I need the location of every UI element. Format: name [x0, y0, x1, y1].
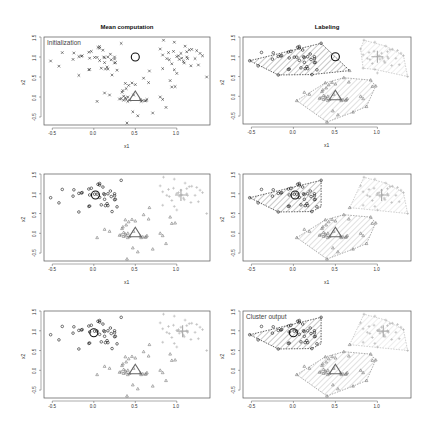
x-tick-label: -0.5 [48, 404, 56, 409]
data-point [73, 326, 76, 329]
data-point [168, 59, 171, 62]
x-tick-label: 0.5 [131, 131, 137, 136]
data-point [78, 74, 81, 77]
panel-4 [238, 174, 411, 266]
y-tick-label: 1.0 [231, 192, 236, 198]
x-tick-label: -0.5 [247, 267, 255, 272]
data-point [127, 220, 130, 223]
y-tick-label: -0.5 [32, 249, 37, 257]
data-point [103, 198, 106, 201]
data-point [172, 50, 175, 53]
data-point [303, 228, 306, 231]
data-point [188, 322, 191, 325]
x-tick-label: 1.0 [373, 130, 379, 135]
data-point [96, 236, 99, 239]
data-point [121, 362, 124, 365]
data-point [303, 91, 306, 94]
y-tick-label: 0.5 [32, 348, 37, 354]
data-point [49, 196, 52, 199]
y-tick-label: 1.0 [32, 329, 37, 335]
data-point [134, 220, 137, 223]
data-point [109, 190, 112, 193]
data-point [131, 218, 134, 221]
data-point [167, 325, 170, 328]
data-point [134, 357, 137, 360]
data-point [199, 52, 202, 55]
data-point [127, 357, 130, 360]
data-point [124, 82, 127, 85]
data-point [205, 349, 208, 352]
data-point [396, 186, 399, 189]
data-point [73, 52, 76, 55]
data-point [272, 52, 275, 55]
data-point [184, 45, 187, 48]
data-point [61, 188, 64, 191]
data-point [116, 69, 119, 72]
data-point [151, 112, 154, 115]
data-point [107, 329, 110, 332]
data-point [180, 52, 183, 55]
data-point [194, 331, 197, 334]
data-point [201, 191, 204, 194]
x-tick-label: 1.0 [173, 267, 179, 272]
centroid-circle-icon [131, 53, 139, 61]
data-point [170, 359, 173, 362]
data-point [142, 77, 145, 80]
data-point [78, 329, 81, 332]
y-axis-label: x2 [219, 79, 225, 84]
data-point [147, 355, 150, 358]
data-point [73, 189, 76, 192]
data-point [103, 228, 106, 231]
data-point [103, 57, 106, 60]
data-point [174, 359, 177, 362]
x-tick-label: 1.0 [173, 131, 179, 136]
data-point [162, 39, 165, 42]
data-point [102, 49, 105, 52]
column-title-labeling: Labeling [219, 24, 432, 30]
data-point [136, 115, 139, 118]
y-tick-label: -0.5 [231, 249, 236, 257]
y-tick-label: 0.5 [32, 211, 37, 217]
x-tick-label: 0.0 [90, 131, 96, 136]
data-point [173, 315, 176, 318]
data-point [199, 326, 202, 329]
y-tick-label: 0.0 [231, 94, 236, 100]
data-point [61, 51, 64, 54]
data-point [172, 324, 175, 327]
y-tick-label: -0.5 [231, 112, 236, 120]
data-point [111, 210, 114, 213]
data-point [78, 55, 81, 58]
data-point [110, 195, 113, 198]
data-point [98, 333, 101, 336]
y-tick-label: 0.0 [32, 95, 37, 101]
data-point [201, 328, 204, 331]
x-axis-label: x1 [124, 279, 129, 285]
y-axis-label: x2 [20, 353, 26, 358]
data-point [175, 209, 178, 212]
x-tick-label: 0.5 [331, 404, 337, 409]
data-point [184, 182, 187, 185]
data-point [98, 59, 101, 62]
y-tick-label: 0.5 [231, 211, 236, 217]
data-point [103, 92, 106, 95]
column-title-mean-computation: Mean computation [19, 24, 235, 30]
panel-6 [238, 311, 411, 403]
data-point [185, 324, 188, 327]
data-point [127, 96, 130, 99]
x-tick-label: 0.0 [289, 267, 295, 272]
data-point [162, 176, 165, 179]
data-point [205, 212, 208, 215]
data-point [161, 54, 164, 57]
x-tick-label: -0.5 [48, 131, 56, 136]
data-point [78, 348, 81, 351]
data-point [159, 96, 162, 99]
data-point [376, 72, 379, 75]
y-axis-label: x2 [20, 216, 26, 221]
data-point [165, 331, 168, 334]
plot-frame [44, 37, 210, 125]
y-tick-label: 1.5 [231, 35, 236, 41]
data-point [148, 70, 151, 73]
data-point [161, 190, 164, 193]
data-point [197, 64, 200, 67]
y-tick-label: 0.5 [32, 75, 37, 81]
